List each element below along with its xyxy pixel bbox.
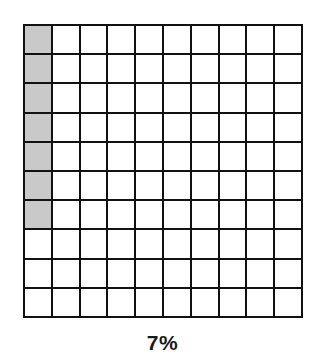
grid-cell-empty [275, 114, 301, 141]
grid-cell-empty [247, 201, 273, 228]
grid-cell-empty [53, 26, 79, 53]
grid-cell-empty [108, 26, 134, 53]
grid-cell-empty [275, 230, 301, 257]
grid-cell-empty [81, 26, 107, 53]
grid-cell-empty [164, 143, 190, 170]
grid-cell-empty [247, 230, 273, 257]
grid-cell-empty [164, 260, 190, 287]
grid-cell-empty [164, 26, 190, 53]
grid-cell-empty [136, 201, 162, 228]
grid-cell-empty [275, 172, 301, 199]
grid-cell-empty [220, 289, 246, 316]
grid-cell-empty [247, 114, 273, 141]
grid-cell-filled [25, 26, 51, 53]
grid-cell-empty [136, 172, 162, 199]
grid-cell-filled [25, 55, 51, 82]
grid-cell-empty [53, 143, 79, 170]
grid-cell-empty [81, 143, 107, 170]
grid-cell-empty [53, 230, 79, 257]
grid-cell-empty [108, 172, 134, 199]
grid-cell-empty [192, 201, 218, 228]
grid-cell-empty [275, 143, 301, 170]
grid-cell-empty [108, 114, 134, 141]
grid-cell-empty [220, 55, 246, 82]
grid-cell-empty [53, 172, 79, 199]
grid-cell-empty [53, 289, 79, 316]
grid-cell-empty [164, 201, 190, 228]
grid-cell-empty [275, 260, 301, 287]
grid-cell-empty [53, 84, 79, 111]
grid-cell-filled [25, 114, 51, 141]
grid-cell-empty [192, 55, 218, 82]
grid-cell-empty [136, 230, 162, 257]
grid-cell-empty [25, 260, 51, 287]
grid-cell-empty [275, 201, 301, 228]
grid-cell-empty [136, 55, 162, 82]
grid-cell-empty [81, 172, 107, 199]
grid-cell-empty [220, 84, 246, 111]
grid-cell-empty [53, 114, 79, 141]
grid-cell-empty [220, 172, 246, 199]
grid-cell-empty [247, 84, 273, 111]
grid-cell-empty [108, 84, 134, 111]
grid-cell-empty [81, 114, 107, 141]
grid-cell-empty [192, 84, 218, 111]
grid-cell-empty [53, 55, 79, 82]
grid-cell-empty [108, 143, 134, 170]
grid-cell-empty [220, 26, 246, 53]
grid-cell-empty [108, 55, 134, 82]
grid-cell-empty [192, 114, 218, 141]
grid-cell-empty [136, 143, 162, 170]
grid-cell-empty [136, 26, 162, 53]
percentage-grid-figure: 7% [0, 0, 325, 364]
grid-cell-empty [275, 289, 301, 316]
grid-cell-empty [81, 289, 107, 316]
grid-cell-empty [247, 172, 273, 199]
grid-cell-empty [108, 230, 134, 257]
grid-cell-empty [192, 260, 218, 287]
grid-cell-filled [25, 172, 51, 199]
grid-cell-empty [81, 84, 107, 111]
grid-cell-empty [247, 260, 273, 287]
grid-cell-empty [220, 260, 246, 287]
grid-cell-filled [25, 143, 51, 170]
grid-cell-empty [136, 114, 162, 141]
grid-cell-empty [136, 260, 162, 287]
percentage-grid [23, 24, 303, 318]
grid-cell-empty [275, 84, 301, 111]
grid-cell-empty [192, 143, 218, 170]
grid-container [23, 24, 303, 318]
grid-cell-empty [220, 201, 246, 228]
grid-cell-empty [164, 55, 190, 82]
grid-cell-empty [192, 26, 218, 53]
grid-cell-empty [108, 289, 134, 316]
grid-cell-empty [247, 143, 273, 170]
grid-cell-empty [247, 26, 273, 53]
grid-cell-empty [81, 55, 107, 82]
grid-cell-empty [81, 201, 107, 228]
grid-cell-empty [25, 230, 51, 257]
grid-cell-empty [247, 55, 273, 82]
grid-cell-filled [25, 84, 51, 111]
grid-cell-empty [53, 260, 79, 287]
grid-cell-empty [192, 230, 218, 257]
grid-cell-empty [81, 260, 107, 287]
grid-cell-empty [164, 172, 190, 199]
grid-cell-empty [136, 84, 162, 111]
grid-cell-empty [164, 114, 190, 141]
grid-cell-empty [53, 201, 79, 228]
grid-cell-empty [25, 289, 51, 316]
grid-cell-empty [164, 289, 190, 316]
grid-cell-empty [164, 84, 190, 111]
percentage-caption: 7% [0, 329, 325, 357]
grid-cell-empty [247, 289, 273, 316]
grid-cell-empty [108, 260, 134, 287]
grid-cell-empty [220, 114, 246, 141]
grid-cell-empty [275, 55, 301, 82]
grid-cell-empty [81, 230, 107, 257]
grid-cell-filled [25, 201, 51, 228]
grid-cell-empty [164, 230, 190, 257]
grid-cell-empty [220, 230, 246, 257]
grid-cell-empty [275, 26, 301, 53]
grid-cell-empty [220, 143, 246, 170]
